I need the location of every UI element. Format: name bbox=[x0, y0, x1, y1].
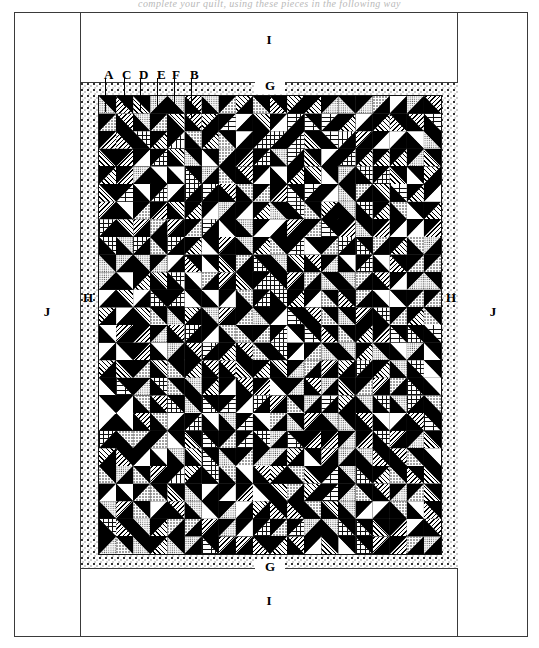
quilt-block bbox=[321, 378, 338, 396]
quilt-block bbox=[219, 325, 236, 343]
quilt-block bbox=[236, 343, 253, 361]
quilt-block bbox=[150, 149, 167, 167]
quilt-block bbox=[133, 219, 150, 237]
quilt-block bbox=[133, 290, 150, 308]
quilt-block bbox=[116, 131, 133, 149]
quilt-block bbox=[390, 395, 407, 413]
quilt-block bbox=[304, 184, 321, 202]
quilt-block bbox=[270, 536, 287, 554]
quilt-block bbox=[219, 114, 236, 132]
quilt-block bbox=[338, 202, 355, 220]
quilt-block bbox=[253, 501, 270, 519]
quilt-block bbox=[236, 202, 253, 220]
quilt-block bbox=[116, 360, 133, 378]
quilt-block bbox=[356, 360, 373, 378]
quilt-block bbox=[424, 378, 441, 396]
quilt-block bbox=[304, 325, 321, 343]
quilt-block bbox=[287, 114, 304, 132]
quilt-block bbox=[150, 255, 167, 273]
quilt-block bbox=[270, 184, 287, 202]
quilt-block bbox=[150, 325, 167, 343]
quilt-block bbox=[424, 307, 441, 325]
quilt-block bbox=[356, 343, 373, 361]
quilt-block bbox=[150, 378, 167, 396]
quilt-block bbox=[236, 96, 253, 114]
quilt-block bbox=[407, 202, 424, 220]
quilt-block bbox=[99, 184, 116, 202]
quilt-block bbox=[356, 448, 373, 466]
quilt-block bbox=[304, 378, 321, 396]
quilt-block bbox=[133, 378, 150, 396]
quilt-block bbox=[321, 114, 338, 132]
quilt-block bbox=[373, 413, 390, 431]
quilt-block bbox=[321, 237, 338, 255]
quilt-block bbox=[373, 255, 390, 273]
quilt-block bbox=[133, 184, 150, 202]
quilt-block bbox=[338, 501, 355, 519]
quilt-block bbox=[116, 325, 133, 343]
quilt-block bbox=[133, 202, 150, 220]
quilt-block bbox=[321, 219, 338, 237]
quilt-block bbox=[407, 448, 424, 466]
quilt-block bbox=[185, 255, 202, 273]
quilt-block bbox=[304, 166, 321, 184]
quilt-block bbox=[253, 96, 270, 114]
quilt-block bbox=[133, 413, 150, 431]
quilt-block bbox=[338, 431, 355, 449]
quilt-block bbox=[133, 272, 150, 290]
quilt-block bbox=[424, 413, 441, 431]
quilt-block bbox=[219, 519, 236, 537]
quilt-block bbox=[390, 114, 407, 132]
quilt-block bbox=[390, 96, 407, 114]
quilt-block bbox=[150, 536, 167, 554]
quilt-block bbox=[270, 166, 287, 184]
quilt-block bbox=[356, 307, 373, 325]
quilt-block bbox=[304, 237, 321, 255]
quilt-block bbox=[219, 184, 236, 202]
quilt-block bbox=[304, 219, 321, 237]
quilt-block bbox=[338, 378, 355, 396]
quilt-block bbox=[373, 114, 390, 132]
quilt-block bbox=[407, 431, 424, 449]
quilt-block bbox=[253, 448, 270, 466]
quilt-block bbox=[270, 96, 287, 114]
quilt-block bbox=[219, 166, 236, 184]
quilt-block bbox=[253, 272, 270, 290]
quilt-block bbox=[253, 290, 270, 308]
outer-border-bottom-I: I bbox=[80, 569, 458, 637]
quilt-block bbox=[338, 466, 355, 484]
quilt-block bbox=[287, 413, 304, 431]
quilt-block bbox=[424, 219, 441, 237]
quilt-block bbox=[133, 501, 150, 519]
quilt-block bbox=[390, 255, 407, 273]
quilt-block bbox=[150, 307, 167, 325]
quilt-block bbox=[390, 501, 407, 519]
quilt-block bbox=[167, 131, 184, 149]
quilt-block bbox=[407, 519, 424, 537]
quilt-block bbox=[185, 519, 202, 537]
quilt-block bbox=[202, 448, 219, 466]
quilt-block bbox=[304, 536, 321, 554]
quilt-block bbox=[338, 484, 355, 502]
quilt-block bbox=[253, 484, 270, 502]
quilt-block bbox=[304, 343, 321, 361]
quilt-block bbox=[236, 307, 253, 325]
quilt-block bbox=[219, 202, 236, 220]
quilt-block bbox=[185, 501, 202, 519]
quilt-block bbox=[116, 378, 133, 396]
quilt-block bbox=[287, 519, 304, 537]
quilt-block bbox=[373, 484, 390, 502]
quilt-block bbox=[270, 395, 287, 413]
quilt-block bbox=[321, 466, 338, 484]
quilt-block bbox=[185, 307, 202, 325]
quilt-block bbox=[133, 307, 150, 325]
quilt-block bbox=[133, 395, 150, 413]
quilt-block bbox=[219, 219, 236, 237]
quilt-block bbox=[202, 131, 219, 149]
quilt-block bbox=[219, 395, 236, 413]
quilt-block bbox=[116, 96, 133, 114]
quilt-block bbox=[185, 360, 202, 378]
quilt-block bbox=[167, 96, 184, 114]
quilt-block bbox=[356, 290, 373, 308]
quilt-block bbox=[185, 166, 202, 184]
